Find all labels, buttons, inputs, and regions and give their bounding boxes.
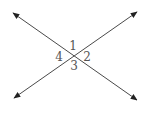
line-b: [14, 12, 137, 98]
intersecting-lines-diagram: 1 2 3 4: [0, 0, 148, 114]
angle-label-3: 3: [70, 59, 78, 73]
line-a: [13, 13, 137, 100]
angle-label-2: 2: [83, 50, 91, 64]
angle-label-1: 1: [69, 39, 77, 53]
angle-label-4: 4: [55, 50, 63, 64]
